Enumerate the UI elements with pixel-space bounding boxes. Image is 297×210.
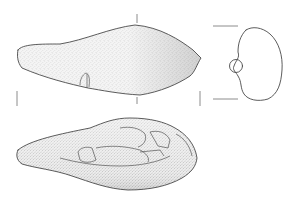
artifact-drawing xyxy=(0,0,297,210)
cross-section-view xyxy=(213,26,282,100)
upper-face-shading xyxy=(17,25,201,95)
lower-face-view xyxy=(17,118,197,190)
cross-section-outline xyxy=(233,28,282,101)
upper-face-view xyxy=(17,25,201,95)
lower-face-shading xyxy=(17,118,197,190)
